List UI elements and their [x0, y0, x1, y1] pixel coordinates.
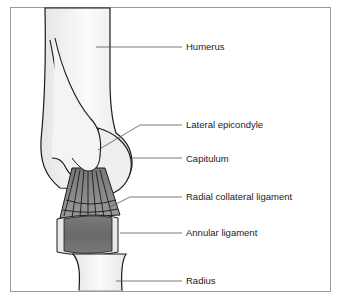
elbow-diagram: Humerus Lateral epicondyle Capitulum Rad… [0, 0, 337, 299]
label-lateral-epicondyle: Lateral epicondyle [186, 119, 263, 130]
diagram-canvas [0, 0, 337, 299]
label-radius: Radius [186, 275, 216, 286]
annular-ligament-fill [64, 216, 112, 253]
label-capitulum: Capitulum [186, 153, 229, 164]
label-humerus: Humerus [186, 41, 225, 52]
label-annular-ligament: Annular ligament [186, 227, 257, 238]
label-radial-collateral-ligament: Radial collateral ligament [186, 191, 292, 202]
radius-bone [73, 254, 126, 291]
